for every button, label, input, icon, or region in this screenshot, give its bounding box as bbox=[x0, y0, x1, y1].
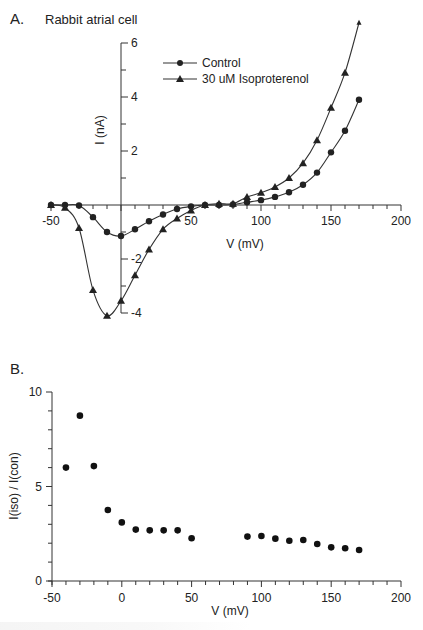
data-point-control bbox=[356, 97, 362, 103]
legend: Control 30 uM Isoproterenol bbox=[163, 56, 309, 86]
y-tick-label: -2 bbox=[131, 252, 142, 266]
data-point-ratio bbox=[328, 544, 335, 551]
panel-a: A. Rabbit atrial cell -5050100150200-4-2… bbox=[10, 10, 411, 320]
data-point-control bbox=[160, 211, 166, 217]
data-point-control bbox=[272, 194, 278, 200]
data-point-control bbox=[118, 233, 124, 239]
y-tick-label: 2 bbox=[131, 144, 138, 158]
data-point-isoproterenol bbox=[313, 136, 321, 143]
data-point-control bbox=[342, 128, 348, 134]
data-point-ratio bbox=[91, 463, 98, 470]
data-point-isoproterenol bbox=[357, 20, 362, 25]
data-point-ratio bbox=[174, 527, 181, 534]
panel-a-y-axis-label: I (nA) bbox=[93, 115, 107, 144]
data-point-ratio bbox=[146, 527, 153, 534]
data-point-control bbox=[286, 189, 292, 195]
data-point-isoproterenol bbox=[75, 224, 83, 231]
data-point-ratio bbox=[63, 464, 70, 471]
y-tick-label: 6 bbox=[131, 36, 138, 50]
data-point-control bbox=[258, 197, 264, 203]
panel-b-label: B. bbox=[10, 360, 24, 377]
y-tick-label: 0 bbox=[35, 574, 42, 588]
data-point-control bbox=[132, 226, 138, 232]
data-point-isoproterenol bbox=[131, 271, 139, 278]
data-point-control bbox=[328, 149, 334, 155]
x-tick-label: 50 bbox=[185, 591, 199, 605]
x-tick-label: 100 bbox=[251, 591, 271, 605]
figure-caption-clipped bbox=[0, 622, 250, 630]
x-tick-label: 50 bbox=[184, 214, 198, 228]
panel-a-label: A. bbox=[10, 10, 24, 27]
data-point-isoproterenol bbox=[341, 69, 349, 76]
data-point-isoproterenol bbox=[299, 159, 307, 166]
x-tick-label: 0 bbox=[118, 591, 125, 605]
x-tick-label: 200 bbox=[391, 591, 411, 605]
x-tick-label: 150 bbox=[321, 591, 341, 605]
data-point-ratio bbox=[188, 535, 195, 542]
figure: A. Rabbit atrial cell -5050100150200-4-2… bbox=[0, 0, 423, 630]
data-point-ratio bbox=[272, 535, 279, 542]
data-point-ratio bbox=[286, 537, 293, 544]
x-tick-label: -50 bbox=[42, 214, 60, 228]
y-tick-label: -4 bbox=[131, 306, 142, 320]
x-tick-label: -50 bbox=[43, 591, 61, 605]
panel-a-x-axis-label: V (mV) bbox=[226, 237, 263, 251]
data-point-isoproterenol bbox=[173, 215, 181, 222]
data-point-control bbox=[244, 199, 250, 205]
legend-label-isoproterenol: 30 uM Isoproterenol bbox=[202, 72, 309, 86]
data-point-control bbox=[90, 214, 96, 220]
data-point-control bbox=[300, 182, 306, 188]
panel-b-points bbox=[63, 412, 363, 553]
data-point-ratio bbox=[314, 541, 321, 548]
x-tick-label: 150 bbox=[321, 214, 341, 228]
legend-label-control: Control bbox=[202, 56, 241, 70]
data-point-control bbox=[146, 218, 152, 224]
data-point-ratio bbox=[105, 507, 112, 514]
data-point-ratio bbox=[160, 527, 167, 534]
data-point-control bbox=[76, 202, 82, 208]
x-tick-label: 200 bbox=[391, 214, 411, 228]
data-point-ratio bbox=[132, 526, 139, 533]
data-point-control bbox=[104, 229, 110, 235]
data-point-isoproterenol bbox=[327, 104, 335, 111]
data-point-ratio bbox=[342, 545, 349, 552]
panel-b-y-axis-label: I(iso) / I(con) bbox=[7, 452, 21, 519]
y-tick-label: 10 bbox=[29, 385, 43, 399]
data-point-ratio bbox=[244, 533, 251, 540]
x-tick-label: 100 bbox=[251, 214, 271, 228]
data-point-isoproterenol bbox=[145, 246, 153, 253]
data-point-control bbox=[174, 206, 180, 212]
data-point-ratio bbox=[356, 547, 363, 554]
data-point-isoproterenol bbox=[271, 183, 279, 190]
panel-a-title: Rabbit atrial cell bbox=[45, 12, 138, 27]
data-point-ratio bbox=[258, 533, 265, 540]
data-point-ratio bbox=[119, 519, 126, 526]
data-point-control bbox=[314, 169, 320, 175]
panel-b-axes: -500501001502000510 bbox=[29, 385, 412, 605]
legend-marker-circle bbox=[177, 60, 183, 66]
data-point-isoproterenol bbox=[117, 297, 125, 304]
data-point-isoproterenol bbox=[89, 286, 97, 293]
y-tick-label: 4 bbox=[131, 90, 138, 104]
data-point-ratio bbox=[300, 537, 307, 544]
data-point-ratio bbox=[77, 412, 84, 419]
y-tick-label: 5 bbox=[35, 480, 42, 494]
panel-b-x-axis-label: V (mV) bbox=[211, 604, 248, 618]
panel-b: B. -500501001502000510 V (mV) I(iso) / I… bbox=[7, 360, 411, 618]
